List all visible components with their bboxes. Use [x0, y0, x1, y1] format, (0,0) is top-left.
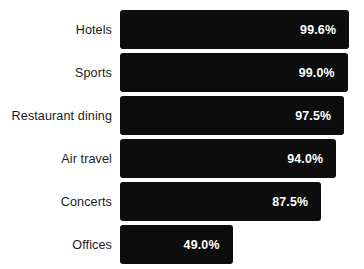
chart-row: Concerts 87.5%: [0, 182, 364, 221]
bar[interactable]: 99.0%: [120, 53, 348, 92]
bar-track: 87.5%: [112, 182, 364, 221]
bar-track: 99.0%: [112, 53, 364, 92]
bar[interactable]: 49.0%: [120, 225, 233, 264]
category-label: Sports: [0, 53, 112, 92]
chart-row: Restaurant dining 97.5%: [0, 96, 364, 135]
chart-row: Air travel 94.0%: [0, 139, 364, 178]
chart-row: Offices 49.0%: [0, 225, 364, 264]
bar-value-label: 87.5%: [272, 195, 308, 209]
category-label: Concerts: [0, 182, 112, 221]
bar[interactable]: 94.0%: [120, 139, 336, 178]
bar[interactable]: 87.5%: [120, 182, 321, 221]
category-label: Restaurant dining: [0, 96, 112, 135]
bar[interactable]: 99.6%: [120, 10, 349, 49]
bar-value-label: 99.0%: [299, 66, 335, 80]
bar-value-label: 97.5%: [295, 109, 331, 123]
bar-value-label: 99.6%: [300, 23, 336, 37]
bar-track: 94.0%: [112, 139, 364, 178]
chart-row: Hotels 99.6%: [0, 10, 364, 49]
bar-track: 49.0%: [112, 225, 364, 264]
bar-track: 99.6%: [112, 10, 364, 49]
bar-value-label: 49.0%: [184, 238, 220, 252]
bar-value-label: 94.0%: [287, 152, 323, 166]
category-label: Hotels: [0, 10, 112, 49]
chart-row: Sports 99.0%: [0, 53, 364, 92]
category-label: Offices: [0, 225, 112, 264]
bar-track: 97.5%: [112, 96, 364, 135]
category-label: Air travel: [0, 139, 112, 178]
bar-chart: Hotels 99.6% Sports 99.0% Restaurant din…: [0, 0, 364, 269]
bar[interactable]: 97.5%: [120, 96, 344, 135]
